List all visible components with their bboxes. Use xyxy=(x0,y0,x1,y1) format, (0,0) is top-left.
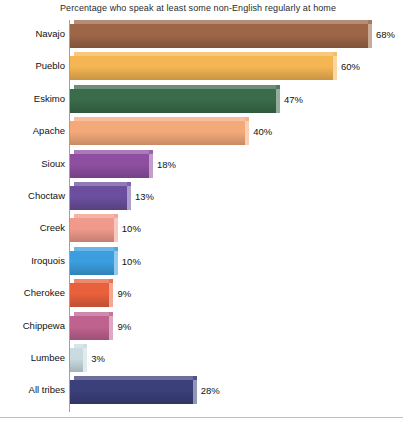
bar-front-face xyxy=(70,348,83,372)
value-label: 9% xyxy=(117,288,131,299)
category-label: Pueblo xyxy=(0,60,65,71)
bar[interactable] xyxy=(70,89,276,113)
bar-row: Sioux18% xyxy=(0,150,403,183)
bar-row: Pueblo60% xyxy=(0,52,403,85)
bar-row: Apache40% xyxy=(0,117,403,150)
bar-front-face xyxy=(70,283,109,307)
bar[interactable] xyxy=(70,283,109,307)
bar-side-face xyxy=(193,376,197,404)
value-label: 28% xyxy=(201,385,220,396)
value-label: 9% xyxy=(117,321,131,332)
bar-side-face xyxy=(114,214,118,242)
value-label: 13% xyxy=(135,191,154,202)
value-label: 3% xyxy=(91,353,105,364)
bar-front-face xyxy=(70,186,127,210)
value-label: 47% xyxy=(284,94,303,105)
bar-front-face xyxy=(70,24,368,48)
category-label: Chippewa xyxy=(0,320,65,331)
bar[interactable] xyxy=(70,121,245,145)
bar-row: Iroquois10% xyxy=(0,247,403,280)
category-label: Navajo xyxy=(0,28,65,39)
bar[interactable] xyxy=(70,316,109,340)
bar[interactable] xyxy=(70,251,114,275)
category-label: All tribes xyxy=(0,384,65,395)
category-label: Cherokee xyxy=(0,287,65,298)
value-label: 10% xyxy=(122,256,141,267)
bar-side-face xyxy=(333,52,337,80)
bar[interactable] xyxy=(70,186,127,210)
category-label: Lumbee xyxy=(0,352,65,363)
category-label: Apache xyxy=(0,125,65,136)
bar-side-face xyxy=(109,279,113,307)
bar-side-face xyxy=(245,117,249,145)
category-label: Creek xyxy=(0,222,65,233)
bar[interactable] xyxy=(70,218,114,242)
bar[interactable] xyxy=(70,24,368,48)
bar[interactable] xyxy=(70,56,333,80)
bar-row: Eskimo47% xyxy=(0,85,403,118)
bar-row: Cherokee9% xyxy=(0,279,403,312)
value-label: 60% xyxy=(341,61,360,72)
bar-row: Navajo68% xyxy=(0,20,403,53)
category-label: Choctaw xyxy=(0,190,65,201)
bar-front-face xyxy=(70,121,245,145)
bar-front-face xyxy=(70,316,109,340)
bar[interactable] xyxy=(70,380,193,404)
plot-area: Navajo68%Pueblo60%Eskimo47%Apache40%Siou… xyxy=(0,20,403,418)
value-label: 10% xyxy=(122,223,141,234)
category-label: Eskimo xyxy=(0,93,65,104)
bar-front-face xyxy=(70,251,114,275)
bar-front-face xyxy=(70,218,114,242)
bar-side-face xyxy=(368,20,372,48)
bar-side-face xyxy=(114,247,118,275)
bar-row: Creek10% xyxy=(0,214,403,247)
category-label: Sioux xyxy=(0,158,65,169)
value-label: 68% xyxy=(376,29,395,40)
bar-side-face xyxy=(83,344,87,372)
bar[interactable] xyxy=(70,154,149,178)
value-label: 18% xyxy=(157,159,176,170)
bar-front-face xyxy=(70,154,149,178)
bar[interactable] xyxy=(70,348,83,372)
chart-baseline xyxy=(0,417,403,418)
bar-front-face xyxy=(70,380,193,404)
bar-row: Chippewa9% xyxy=(0,312,403,345)
bar-row: Choctaw13% xyxy=(0,182,403,215)
value-label: 40% xyxy=(253,126,272,137)
bar-row: Lumbee3% xyxy=(0,344,403,377)
bar-row: All tribes28% xyxy=(0,376,403,409)
bar-front-face xyxy=(70,89,276,113)
bar-side-face xyxy=(127,182,131,210)
category-label: Iroquois xyxy=(0,255,65,266)
chart-title: Percentage who speak at least some non-E… xyxy=(60,3,336,13)
bar-side-face xyxy=(149,150,153,178)
bar-side-face xyxy=(276,85,280,113)
bar-chart: Percentage who speak at least some non-E… xyxy=(0,0,403,421)
bar-side-face xyxy=(109,312,113,340)
bar-front-face xyxy=(70,56,333,80)
